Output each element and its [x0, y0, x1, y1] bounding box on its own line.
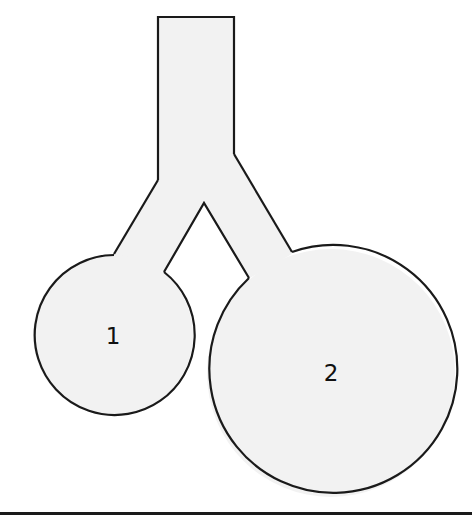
diagram-canvas: 1 2: [0, 0, 472, 515]
diagram-shape: [33, 17, 457, 497]
compartment-2-label: 2: [324, 360, 339, 386]
airway-bifurcation-diagram: 1 2: [0, 0, 472, 515]
compartment-1-label: 1: [106, 323, 121, 349]
trunk-and-branches-fill: [114, 17, 292, 278]
